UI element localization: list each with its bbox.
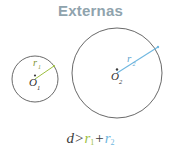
large-circle-radius-line — [117, 47, 158, 73]
small-circle-center-label-subscript: 1 — [37, 84, 40, 91]
plus-symbol: + — [94, 130, 104, 146]
large-circle-radius-endpoint-dot — [157, 46, 159, 48]
greater-than-symbol: > — [74, 130, 84, 146]
small-circle-center-label: O — [29, 76, 37, 88]
distance-symbol: d — [66, 130, 74, 146]
large-circle-radius-label: r — [127, 52, 132, 64]
radius2-symbol: r2 — [105, 130, 115, 146]
large-circle-radius-label-subscript: 2 — [133, 61, 136, 67]
condition-formula: d>r1+r2 — [0, 130, 181, 147]
radius1-symbol: r1 — [84, 130, 94, 146]
large-circle-center-label-subscript: 2 — [119, 78, 123, 85]
circles-external-position-figure: Externas O 1 r 1 O 2 r 2 d>r1+r2 — [0, 0, 181, 154]
small-circle-radius-label-subscript: 1 — [38, 64, 41, 70]
large-circle-center-label: O — [111, 70, 119, 82]
small-circle-radius-endpoint-dot — [53, 65, 55, 67]
